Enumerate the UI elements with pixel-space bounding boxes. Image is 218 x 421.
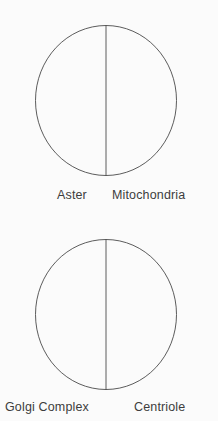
figure-group-1: Aster Mitochondria — [0, 0, 218, 210]
split-circle-1 — [35, 25, 177, 176]
label-row-1: Aster Mitochondria — [0, 186, 218, 208]
label-golgi-complex: Golgi Complex — [5, 398, 89, 416]
label-row-2: Golgi Complex Centriole — [0, 398, 218, 420]
split-circle-2-graphic — [35, 239, 177, 390]
split-circle-2 — [35, 239, 177, 390]
split-circle-1-graphic — [35, 25, 177, 176]
label-centriole: Centriole — [134, 398, 185, 416]
label-aster: Aster — [57, 186, 87, 204]
diagram-canvas: Aster Mitochondria Golgi Complex Centrio… — [0, 0, 218, 421]
figure-group-2: Golgi Complex Centriole — [0, 214, 218, 421]
label-mitochondria: Mitochondria — [112, 186, 185, 204]
